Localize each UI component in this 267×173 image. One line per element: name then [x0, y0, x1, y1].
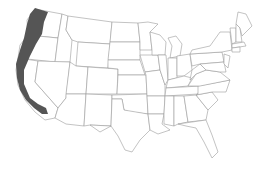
state-connecticut — [232, 47, 240, 52]
state-south-dakota — [108, 42, 140, 60]
state-colorado — [86, 67, 118, 94]
state-wyoming — [76, 42, 110, 68]
state-montana — [66, 16, 112, 44]
state-outlines — [16, 9, 252, 158]
state-indiana — [168, 58, 177, 80]
state-mississippi — [164, 96, 174, 126]
state-new-mexico — [84, 94, 112, 126]
state-utah — [66, 62, 88, 94]
us-map — [0, 0, 267, 173]
state-florida — [178, 120, 218, 158]
state-michigan — [168, 36, 182, 58]
state-new-york — [190, 32, 232, 54]
state-kansas — [117, 75, 147, 94]
state-arkansas — [147, 96, 165, 114]
state-ohio — [177, 54, 192, 76]
state-tennessee — [165, 86, 200, 96]
state-north-dakota — [110, 22, 140, 42]
state-wisconsin — [150, 32, 166, 55]
